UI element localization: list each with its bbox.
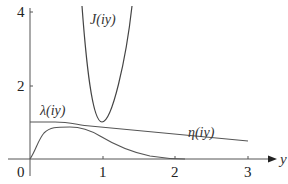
curve-eta — [30, 122, 248, 141]
chart: 4 2 0 1 2 3 y J(iy) η(iy) λ(iy) — [0, 0, 288, 184]
origin-label: 0 — [17, 164, 25, 180]
y-tick-label-4: 4 — [17, 4, 25, 20]
curve-label-eta: η(iy) — [188, 125, 215, 141]
x-tick-label-1: 1 — [99, 164, 107, 180]
curve-lambda — [30, 127, 185, 159]
x-axis-label: y — [278, 151, 287, 167]
x-axis-arrow-icon — [268, 156, 277, 163]
x-tick-label-3: 3 — [244, 164, 252, 180]
curve-label-lambda: λ(iy) — [39, 103, 66, 119]
curve-label-J: J(iy) — [90, 12, 116, 28]
y-tick-label-2: 2 — [17, 78, 25, 94]
x-tick-label-2: 2 — [171, 164, 179, 180]
